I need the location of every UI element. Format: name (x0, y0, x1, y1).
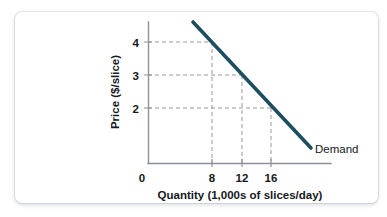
x-tick-label-12: 12 (236, 172, 249, 184)
y-tick-label-3: 3 (133, 70, 139, 82)
x-tick-label-8: 8 (209, 172, 216, 184)
demand-line-series (193, 22, 311, 148)
x-tick-label-16: 16 (265, 172, 278, 184)
x-tick-label-0: 0 (139, 172, 145, 184)
demand-series-label: Demand (315, 143, 358, 155)
x-axis-title: Quantity (1,000s of slices/day) (158, 189, 323, 201)
y-tick-label-4: 4 (133, 37, 140, 49)
y-axis-title: Price ($/slice) (109, 55, 121, 129)
figure-card: 4 3 2 0 8 12 16 Price ($/slice) Quantity… (15, 12, 378, 203)
demand-curve-chart: 4 3 2 0 8 12 16 Price ($/slice) Quantity… (15, 12, 378, 203)
y-tick-label-2: 2 (133, 103, 139, 115)
